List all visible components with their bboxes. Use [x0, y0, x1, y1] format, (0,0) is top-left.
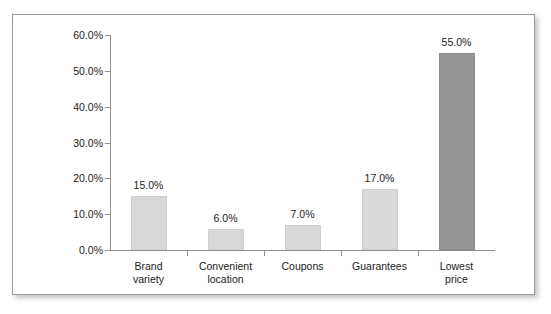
- bar-value-label: 6.0%: [186, 213, 266, 224]
- y-axis-tick-label: 0.0%: [43, 245, 110, 256]
- x-tick-mark: [418, 251, 419, 256]
- figure: 0.0%10.0%20.0%30.0%40.0%50.0%60.0% 15.0%…: [0, 0, 551, 314]
- bar-value-label: 15.0%: [109, 180, 189, 191]
- bar-value-label: 7.0%: [263, 209, 343, 220]
- y-axis-tick-label: 40.0%: [43, 102, 110, 113]
- x-tick-mark: [264, 251, 265, 256]
- y-axis-tick-label: 20.0%: [43, 173, 110, 184]
- bar: [208, 229, 244, 251]
- category-label-line: price: [407, 273, 507, 286]
- bar: [285, 225, 321, 250]
- x-tick-mark: [341, 251, 342, 256]
- y-axis-line: [110, 35, 111, 251]
- bar: [439, 53, 475, 250]
- y-axis-tick-label: 50.0%: [43, 66, 110, 77]
- y-axis-tick-label: 30.0%: [43, 138, 110, 149]
- y-axis-tick-label: 10.0%: [43, 209, 110, 220]
- bar: [131, 196, 167, 250]
- plot-area: 0.0%10.0%20.0%30.0%40.0%50.0%60.0% 15.0%…: [0, 0, 551, 314]
- y-axis-tick-label: 60.0%: [43, 30, 110, 41]
- x-tick-mark: [187, 251, 188, 256]
- category-label-line: Lowest: [407, 260, 507, 273]
- bar: [362, 189, 398, 250]
- x-axis-line: [110, 250, 495, 251]
- category-label: Lowestprice: [407, 260, 507, 286]
- category-label-line: location: [176, 273, 276, 286]
- bar-value-label: 55.0%: [417, 37, 497, 48]
- bar-value-label: 17.0%: [340, 173, 420, 184]
